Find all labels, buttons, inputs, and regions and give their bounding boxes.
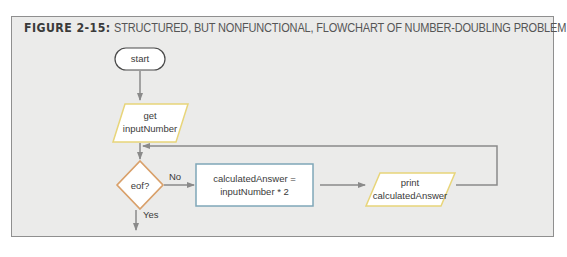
input-parallelogram: get inputNumber [113, 104, 188, 142]
process-label-line1: calculatedAnswer = [213, 173, 296, 184]
process-rectangle: calculatedAnswer = inputNumber * 2 [196, 164, 313, 206]
start-label: start [131, 53, 150, 64]
yes-label: Yes [143, 209, 159, 220]
flowchart: start get inputNumber eof? No calculated… [0, 0, 567, 257]
start-terminator: start [115, 48, 165, 70]
decision-label: eof? [131, 180, 150, 191]
decision-diamond: eof? [117, 161, 163, 209]
output-parallelogram: print calculatedAnswer [366, 173, 455, 206]
output-label-line2: calculatedAnswer [373, 190, 447, 201]
input-label-line1: get [143, 110, 157, 121]
output-label-line1: print [401, 177, 420, 188]
no-label: No [169, 171, 181, 182]
process-label-line2: inputNumber * 2 [220, 186, 289, 197]
input-label-line2: inputNumber [123, 123, 177, 134]
